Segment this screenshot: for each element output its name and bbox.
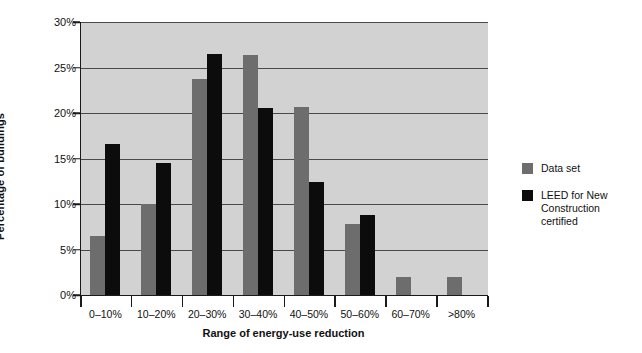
x-axis-tick-mark xyxy=(233,296,235,307)
bar xyxy=(309,182,324,295)
chart-legend: Data setLEED for New Construction certif… xyxy=(522,162,640,242)
y-axis-tick-label: 20% xyxy=(30,107,76,119)
bar xyxy=(294,107,309,295)
bar xyxy=(90,236,105,295)
x-axis-tick-label: 50–60% xyxy=(334,308,385,320)
x-axis-tick-label: 0–10% xyxy=(80,308,131,320)
x-axis-tick-label: 10–20% xyxy=(131,308,182,320)
legend-item: LEED for New Construction certified xyxy=(522,189,640,228)
bar xyxy=(258,108,273,295)
y-axis-tick-mark xyxy=(73,249,80,251)
y-axis-tick-mark xyxy=(73,158,80,160)
legend-label: LEED for New Construction certified xyxy=(541,189,608,228)
x-axis-tick-label: >80% xyxy=(436,308,487,320)
x-axis-ticks xyxy=(80,296,487,307)
bar-group xyxy=(334,22,385,295)
legend-swatch xyxy=(522,190,533,201)
bar xyxy=(243,55,258,295)
y-axis-tick-label: 25% xyxy=(30,62,76,74)
bar-group xyxy=(233,22,284,295)
legend-swatch xyxy=(522,163,533,174)
y-axis-tick-mark xyxy=(73,203,80,205)
x-axis-tick-mark xyxy=(487,296,489,307)
bar xyxy=(105,144,120,295)
bar xyxy=(396,277,411,295)
x-axis-tick-mark xyxy=(436,296,438,307)
y-axis-tick-label: 5% xyxy=(30,244,76,256)
legend-item: Data set xyxy=(522,162,640,175)
x-axis-tick-labels: 0–10%10–20%20–30%30–40%40–50%50–60%60–70… xyxy=(80,308,487,320)
x-axis-tick-mark xyxy=(385,296,387,307)
x-axis-tick-mark xyxy=(182,296,184,307)
y-axis-tick-label: 30% xyxy=(30,16,76,28)
bar-group xyxy=(80,22,131,295)
y-axis-tick-label: 0% xyxy=(30,289,76,301)
bar-group xyxy=(284,22,335,295)
x-axis-title: Range of energy-use reduction xyxy=(80,327,487,339)
x-axis-tick-label: 20–30% xyxy=(182,308,233,320)
x-axis-tick-mark xyxy=(131,296,133,307)
bar-group xyxy=(385,22,436,295)
legend-label: Data set xyxy=(541,162,580,175)
y-axis-tick-mark xyxy=(73,294,80,296)
x-axis-tick-mark xyxy=(284,296,286,307)
bar xyxy=(192,79,207,295)
x-axis-tick-label: 40–50% xyxy=(284,308,335,320)
bars-layer xyxy=(80,22,487,295)
x-axis-tick-mark xyxy=(80,296,82,307)
bar-group xyxy=(436,22,487,295)
bar xyxy=(141,204,156,295)
bar xyxy=(156,163,171,295)
bar xyxy=(207,54,222,295)
y-axis-tick-mark xyxy=(73,112,80,114)
y-axis-tick-label: 15% xyxy=(30,153,76,165)
bar xyxy=(447,277,462,295)
bar-chart-figure: Percentage of buildings 0%5%10%15%20%25%… xyxy=(0,0,642,353)
bar-group xyxy=(131,22,182,295)
x-axis-tick-label: 60–70% xyxy=(385,308,436,320)
x-axis-tick-label: 30–40% xyxy=(233,308,284,320)
x-axis-tick-mark xyxy=(334,296,336,307)
y-axis-tick-mark xyxy=(73,67,80,69)
bar xyxy=(345,224,360,295)
y-axis-tick-label: 10% xyxy=(30,198,76,210)
bar-group xyxy=(182,22,233,295)
bar xyxy=(360,215,375,295)
y-axis-tick-mark xyxy=(73,21,80,23)
